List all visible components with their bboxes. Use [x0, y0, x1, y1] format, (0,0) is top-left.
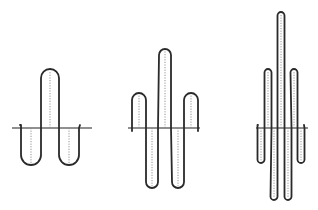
figure	[0, 0, 318, 210]
panel-1	[12, 69, 92, 165]
panel-2	[128, 49, 200, 188]
panel-3	[256, 12, 308, 200]
wave-diagrams	[0, 0, 318, 210]
